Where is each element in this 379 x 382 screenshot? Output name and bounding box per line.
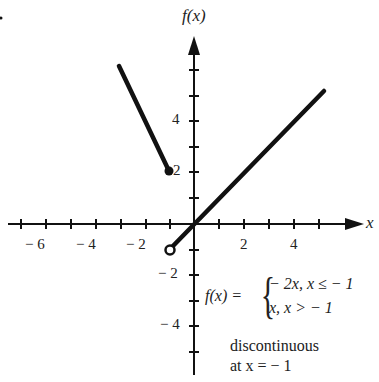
x-tick-label: 2	[240, 236, 248, 253]
y-tick-label: − 2	[158, 265, 178, 282]
plot-canvas	[0, 0, 379, 382]
series-left-segment	[119, 66, 169, 171]
formula-piece-2: x, x > − 1	[269, 299, 333, 317]
x-axis-label: x	[366, 213, 374, 233]
x-tick-label: − 4	[76, 236, 96, 253]
y-axis-label: f(x)	[182, 6, 206, 26]
y-tick-label: − 4	[160, 316, 180, 333]
x-tick-label: 4	[290, 236, 298, 253]
x-tick-label: − 2	[126, 236, 146, 253]
note-line-2: at x = − 1	[230, 357, 292, 375]
open-endpoint-circle	[166, 246, 175, 255]
y-tick-label: 4	[172, 111, 180, 128]
note-line-1: discontinuous	[230, 337, 319, 355]
y-tick-label: 2	[173, 162, 181, 179]
x-tick-label: − 6	[25, 236, 45, 253]
x-axis-arrow-icon	[345, 218, 364, 230]
y-axis-arrow-icon	[188, 36, 200, 55]
formula-piece-1: − 2x, x ≤ − 1	[269, 275, 354, 293]
formula-lhs: f(x) =	[205, 287, 242, 305]
